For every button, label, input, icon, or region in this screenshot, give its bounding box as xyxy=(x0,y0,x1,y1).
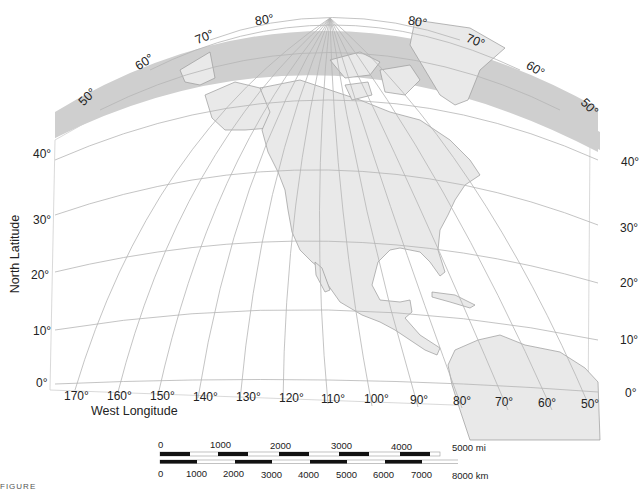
scale-mi-0: 0 xyxy=(158,439,163,450)
lon-label-50: 50° xyxy=(581,397,599,411)
scale-mi-3000: 3000 xyxy=(331,440,352,451)
lon-label-100: 100° xyxy=(364,392,389,406)
scale-mi-1000: 1000 xyxy=(210,439,231,450)
right-lat-label-30: 30° xyxy=(620,221,638,235)
scale-km-1000: 1000 xyxy=(186,468,207,479)
scale-mi-4000: 4000 xyxy=(391,441,412,452)
left-lat-label-10: 10° xyxy=(33,324,51,338)
lon-label-110: 110° xyxy=(321,392,345,406)
scale-km-8000: 8000 km xyxy=(452,470,488,481)
left-lat-label-40: 40° xyxy=(33,147,51,161)
right-lat-label-0: 0° xyxy=(625,386,636,400)
y-axis-title: North Latitude xyxy=(8,215,22,294)
right-lat-label-40: 40° xyxy=(621,155,639,169)
scale-km-4000: 4000 xyxy=(298,469,319,480)
lon-label-130: 130° xyxy=(236,390,261,404)
scale-km-3000: 3000 xyxy=(261,469,282,480)
figure-caption-stub: FIGURE xyxy=(0,482,36,489)
lon-label-70: 70° xyxy=(495,395,513,409)
arc-lat-label-right-80: 80° xyxy=(407,13,428,30)
scale-mi-5000: 5000 mi xyxy=(452,442,486,453)
scale-mi-2000: 2000 xyxy=(270,440,291,451)
x-axis-title: West Longitude xyxy=(91,404,178,418)
lon-label-140: 140° xyxy=(193,390,218,404)
scale-km-0: 0 xyxy=(158,468,163,479)
lon-label-150: 150° xyxy=(150,389,175,403)
left-lat-label-20: 20° xyxy=(31,268,49,282)
scale-km-7000: 7000 xyxy=(411,469,432,480)
scale-km-6000: 6000 xyxy=(373,469,394,480)
lon-label-90: 90° xyxy=(410,393,428,407)
scale-km-2000: 2000 xyxy=(223,468,244,479)
lon-label-80: 80° xyxy=(453,394,471,408)
lon-label-160: 160° xyxy=(107,389,132,403)
left-lat-label-0: 0° xyxy=(36,376,47,390)
right-lat-label-20: 20° xyxy=(620,276,638,290)
lon-label-170: 170° xyxy=(64,389,89,403)
scale-km-5000: 5000 xyxy=(336,469,357,480)
scale-bar xyxy=(158,448,458,470)
lon-label-120: 120° xyxy=(279,391,304,405)
left-lat-label-30: 30° xyxy=(33,213,51,227)
lon-label-60: 60° xyxy=(538,396,556,410)
right-lat-label-10: 10° xyxy=(620,333,638,347)
